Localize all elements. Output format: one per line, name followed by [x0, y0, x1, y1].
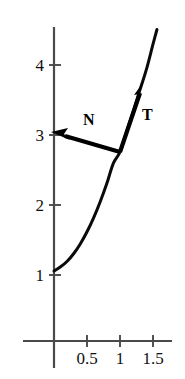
plot-svg: [0, 0, 185, 379]
normal-vector-shaft: [65, 136, 120, 152]
y-tick-label-4: 4: [30, 57, 44, 74]
y-tick-label-2: 2: [30, 197, 44, 214]
axes-group: [23, 27, 172, 368]
normal-vector-N: [51, 128, 120, 152]
y-tick-label-1: 1: [30, 267, 44, 284]
tangent-vector-label-T: T: [142, 107, 153, 123]
tangent-vector-shaft: [120, 93, 140, 152]
x-tick-label-1.5: 1.5: [142, 350, 163, 367]
normal-vector-label-N: N: [83, 112, 95, 128]
figure-canvas: 0.5 1 1.5 4 3 2 1 T N: [0, 0, 185, 379]
y-tick-label-3: 3: [30, 127, 44, 144]
x-tick-label-0.5: 0.5: [76, 350, 97, 367]
x-tick-label-1: 1: [116, 350, 125, 367]
parametric-curve: [54, 30, 157, 272]
